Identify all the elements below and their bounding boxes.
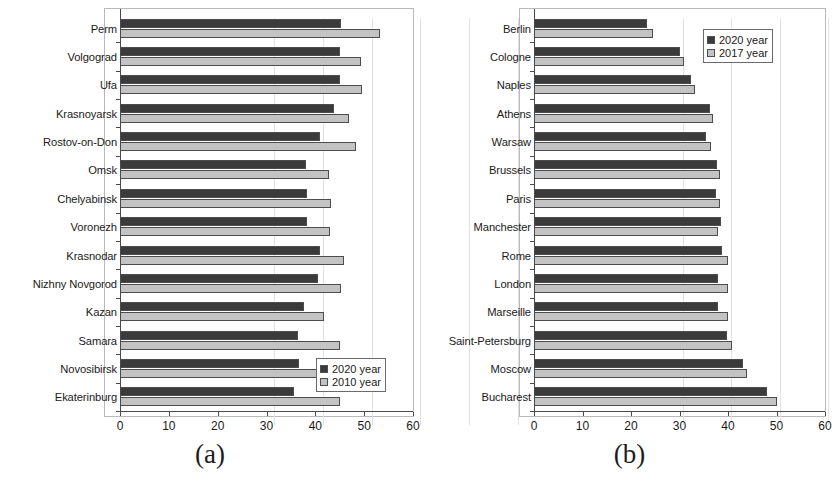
category-label: Saint-Petersburg	[420, 335, 531, 347]
bar-series-2020	[534, 246, 722, 255]
bar-series-2020	[120, 189, 307, 198]
bar-series-2020	[120, 217, 307, 226]
bar-series-prior	[534, 397, 777, 406]
category-label: Krasnoyarsk	[0, 108, 117, 120]
category-label: Chelyabinsk	[0, 193, 117, 205]
category-label: Perm	[0, 23, 117, 35]
bar-series-2020	[534, 19, 647, 28]
category-label: Bucharest	[420, 391, 531, 403]
category-label: Ekaterinburg	[0, 391, 117, 403]
bar-series-2020	[534, 104, 710, 113]
y-axis-tick	[116, 99, 120, 100]
bar-series-2020	[534, 331, 727, 340]
bar-series-2020	[120, 47, 340, 56]
bar-series-2020	[120, 160, 306, 169]
bar-series-2020	[120, 104, 334, 113]
y-axis-tick	[530, 156, 534, 157]
legend-item: 2020 year	[320, 362, 381, 375]
bar-series-prior	[120, 369, 322, 378]
bar-series-2020	[534, 75, 691, 84]
gridline	[828, 18, 829, 425]
bar-series-prior	[534, 341, 732, 350]
bar-series-2020	[120, 331, 298, 340]
x-axis-tick-label: 0	[514, 419, 554, 433]
y-axis-tick	[116, 127, 120, 128]
x-axis-tick	[728, 412, 729, 416]
y-axis-tick	[530, 184, 534, 185]
category-label: Nizhny Novgorod	[0, 278, 117, 290]
category-label: Kazan	[0, 306, 117, 318]
bar-series-2020	[534, 132, 706, 141]
chart-panel-a: PermVolgogradUfaKrasnoyarskRostov-on-Don…	[0, 0, 420, 488]
bar-series-2020	[120, 274, 318, 283]
panel-caption-b: (b)	[420, 439, 839, 470]
y-axis-tick	[116, 156, 120, 157]
x-axis-line	[534, 411, 825, 412]
category-label: Paris	[420, 193, 531, 205]
bar-series-prior	[534, 114, 713, 123]
y-axis-line	[120, 9, 121, 416]
category-label: Naples	[420, 79, 531, 91]
y-axis-tick	[116, 326, 120, 327]
bar-series-prior	[534, 170, 720, 179]
y-axis-tick	[116, 269, 120, 270]
y-axis-tick	[530, 411, 534, 412]
y-axis-tick	[116, 184, 120, 185]
x-axis-tick-label: 20	[198, 419, 238, 433]
legend-label: 2020 year	[719, 34, 768, 46]
legend-swatch-icon	[320, 378, 328, 386]
x-axis-tick	[680, 412, 681, 416]
category-label: Moscow	[420, 363, 531, 375]
bar-series-prior	[120, 227, 330, 236]
legend-swatch-icon	[320, 365, 328, 373]
y-axis-tick	[530, 42, 534, 43]
panel-caption-a: (a)	[0, 439, 420, 470]
bar-series-2020	[120, 132, 320, 141]
x-axis-tick-label: 60	[805, 419, 839, 433]
y-axis-tick	[530, 269, 534, 270]
bar-series-2020	[534, 387, 767, 396]
category-label: Novosibirsk	[0, 363, 117, 375]
y-axis-tick	[530, 71, 534, 72]
bar-series-2020	[120, 19, 341, 28]
x-axis-tick-label: 50	[757, 419, 797, 433]
category-label: Berlin	[420, 23, 531, 35]
y-axis-tick	[116, 383, 120, 384]
x-axis-tick-label: 0	[100, 419, 140, 433]
legend-label: 2017 year	[719, 47, 768, 59]
bar-series-2020	[120, 302, 304, 311]
x-axis-tick	[631, 412, 632, 416]
bar-series-prior	[534, 369, 747, 378]
category-label: Krasnodar	[0, 250, 117, 262]
category-label: Brussels	[420, 164, 531, 176]
y-axis-tick	[530, 354, 534, 355]
bar-series-prior	[120, 170, 329, 179]
bar-series-prior	[120, 114, 349, 123]
category-label: Rostov-on-Don	[0, 136, 117, 148]
x-axis-tick-label: 30	[660, 419, 700, 433]
legend-a: 2020 year 2010 year	[316, 358, 386, 392]
x-axis-tick	[777, 412, 778, 416]
category-label: Marseille	[420, 306, 531, 318]
y-axis-tick	[530, 298, 534, 299]
category-label: Voronezh	[0, 221, 117, 233]
bar-series-2020	[120, 359, 299, 368]
y-axis-line	[534, 9, 535, 416]
bar-series-prior	[534, 142, 711, 151]
bar-series-prior	[120, 312, 324, 321]
bar-series-prior	[534, 256, 728, 265]
y-axis-tick	[116, 298, 120, 299]
legend-item: 2010 year	[320, 375, 381, 388]
x-axis-tick-label: 50	[344, 419, 384, 433]
category-label: Warsaw	[420, 136, 531, 148]
bar-series-2020	[120, 387, 294, 396]
bar-series-prior	[120, 57, 361, 66]
x-axis-tick	[825, 412, 826, 416]
bar-series-prior	[534, 284, 728, 293]
category-label: Omsk	[0, 164, 117, 176]
bar-series-2020	[534, 189, 716, 198]
bar-series-prior	[534, 312, 728, 321]
x-axis-tick-label: 20	[611, 419, 651, 433]
y-axis-tick	[116, 42, 120, 43]
bar-series-prior	[120, 284, 341, 293]
